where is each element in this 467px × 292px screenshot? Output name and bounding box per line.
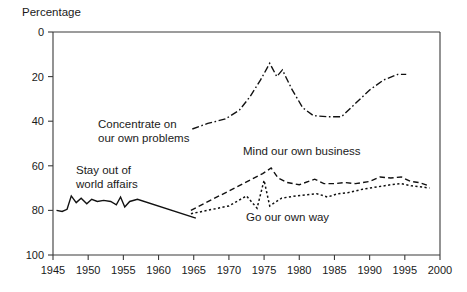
x-tick-label: 1950 xyxy=(76,264,100,276)
x-tick-label: 1990 xyxy=(357,264,381,276)
x-tick-label: 1975 xyxy=(252,264,276,276)
y-tick-label: 80 xyxy=(32,204,44,216)
x-tick-label: 1945 xyxy=(41,264,65,276)
y-tick-label: 40 xyxy=(32,115,44,127)
mind-label: Mind our own business xyxy=(243,145,361,157)
x-tick-label: 1960 xyxy=(146,264,170,276)
x-tick-label: 1995 xyxy=(393,264,417,276)
y-tick-label: 100 xyxy=(26,249,44,261)
x-tick-label: 1965 xyxy=(181,264,205,276)
y-tick-label: 20 xyxy=(32,71,44,83)
y-tick-label: 0 xyxy=(38,26,44,38)
go-own-way-label: Go our own way xyxy=(246,211,329,223)
y-tick-label: 60 xyxy=(32,160,44,172)
x-tick-label: 2000 xyxy=(428,264,452,276)
line-chart: Percentage 100806040200 1945195019551960… xyxy=(0,0,467,292)
chart-background xyxy=(0,0,467,292)
y-axis-title: Percentage xyxy=(22,6,81,18)
x-tick-label: 1980 xyxy=(287,264,311,276)
x-tick-label: 1985 xyxy=(322,264,346,276)
x-tick-label: 1970 xyxy=(217,264,241,276)
x-tick-label: 1955 xyxy=(111,264,135,276)
chart-container: Percentage 100806040200 1945195019551960… xyxy=(0,0,467,292)
